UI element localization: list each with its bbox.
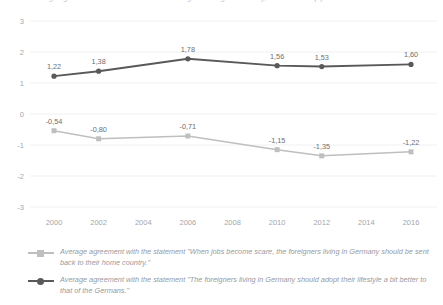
y-axis-tick-label: 3 xyxy=(20,17,24,26)
data-point-label: 1,78 xyxy=(181,45,195,54)
data-point-label: -0,54 xyxy=(46,117,63,126)
legend-item-statement-jobs[interactable]: Average agreement with the statement "Wh… xyxy=(28,246,438,268)
data-point-marker xyxy=(185,56,190,61)
legend-marker-circle-icon xyxy=(28,275,54,287)
x-axis-tick-label: 2016 xyxy=(403,218,420,227)
chart-legend: Average agreement with the statement "Wh… xyxy=(28,246,438,302)
y-axis-tick-label: -1 xyxy=(17,141,24,150)
data-point-marker xyxy=(96,69,101,74)
y-axis-tick-label: -2 xyxy=(17,172,24,181)
series-line xyxy=(54,131,411,156)
x-axis-tick-label: 2006 xyxy=(180,218,197,227)
x-axis-tick-label: 2000 xyxy=(46,218,63,227)
data-point-marker xyxy=(96,136,101,141)
x-axis-tick-label: 2012 xyxy=(313,218,330,227)
data-point-marker xyxy=(52,128,57,133)
data-point-label: 1,60 xyxy=(404,50,418,59)
data-point-label: 1,53 xyxy=(315,53,329,62)
data-point-marker xyxy=(409,149,414,154)
data-point-marker xyxy=(51,74,56,79)
data-point-label: -1,22 xyxy=(403,138,420,147)
x-axis-tick-label: 2014 xyxy=(358,218,375,227)
data-point-marker xyxy=(408,62,413,67)
data-point-label: -0,80 xyxy=(90,125,107,134)
data-point-label: 1,38 xyxy=(92,57,106,66)
data-point-marker xyxy=(319,64,324,69)
data-point-marker xyxy=(319,153,324,158)
data-point-label: 1,22 xyxy=(47,62,61,71)
data-point-label: 1,56 xyxy=(270,52,284,61)
data-point-marker xyxy=(275,147,280,152)
data-point-label: -1,35 xyxy=(313,142,330,151)
x-axis-tick-label: 2008 xyxy=(224,218,241,227)
y-axis-tick-label: 0 xyxy=(20,110,24,119)
x-axis-tick-label: 2002 xyxy=(90,218,107,227)
data-point-marker xyxy=(275,63,280,68)
legend-label: Average agreement with the statement "Wh… xyxy=(54,246,438,268)
y-axis-tick-label: -3 xyxy=(17,203,24,212)
x-axis-tick-label: 2010 xyxy=(269,218,286,227)
series-line xyxy=(54,59,411,76)
plot-area: 3210-1-2-3200020022004200620082010201220… xyxy=(0,0,443,240)
legend-item-statement-lifestyle[interactable]: Average agreement with the statement "Th… xyxy=(28,274,438,296)
y-axis-tick-label: 1 xyxy=(20,79,24,88)
legend-label: Average agreement with the statement "Th… xyxy=(54,274,438,296)
data-point-label: -0,71 xyxy=(180,122,197,131)
legend-marker-square-icon xyxy=(28,247,54,259)
y-axis-tick-label: 2 xyxy=(20,48,24,57)
line-chart: Average agreement with the statements on… xyxy=(0,0,443,305)
data-point-label: -1,15 xyxy=(269,136,286,145)
x-axis-tick-label: 2004 xyxy=(135,218,152,227)
data-point-marker xyxy=(185,134,190,139)
